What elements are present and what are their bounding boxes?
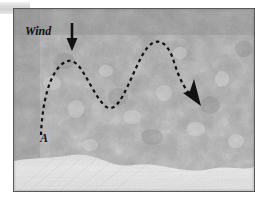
trajectory-path	[41, 42, 194, 135]
figure-frame: Wind A	[13, 8, 255, 192]
down-arrow-icon	[67, 23, 78, 51]
arrowhead-icon	[183, 79, 201, 106]
wind-label: Wind	[25, 24, 51, 39]
origin-point-label: A	[40, 131, 48, 146]
figure-page: Wind A	[0, 0, 255, 208]
